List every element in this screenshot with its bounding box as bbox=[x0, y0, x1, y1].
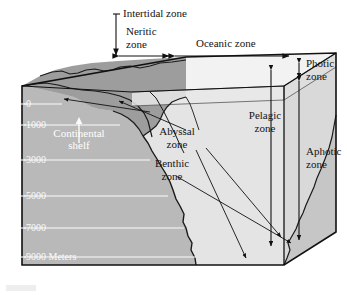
label-pelagic-zone-line2: zone bbox=[242, 123, 288, 135]
depth-label-0: 0 bbox=[26, 99, 31, 109]
label-photic-zone-line2: zone bbox=[306, 71, 327, 83]
label-aphotic-zone-line1: Aphotic bbox=[306, 146, 341, 158]
caption-remnant bbox=[6, 285, 36, 291]
label-benthic-zone-line2: zone bbox=[146, 171, 198, 183]
label-continental-shelf-line2: shelf bbox=[38, 140, 120, 152]
label-abyssal-zone-line2: zone bbox=[152, 139, 202, 151]
depth-label-7000: 7000 bbox=[26, 223, 46, 233]
label-intertidal-zone: Intertidal zone bbox=[123, 8, 187, 20]
label-pelagic-zone-line1: Pelagic bbox=[242, 110, 288, 122]
depth-label-9000-meters: 9000 Meters bbox=[26, 252, 76, 262]
ocean-zones-figure: Intertidal zone Neritic zone Oceanic zon… bbox=[0, 0, 347, 295]
depth-label-3000: 3000 bbox=[26, 155, 46, 165]
depth-label-5000: 5000 bbox=[26, 191, 46, 201]
depth-label-1000: 1000 bbox=[26, 120, 46, 130]
label-neritic-zone-line1: Neritic bbox=[126, 26, 157, 38]
label-photic-zone-line1: Photic bbox=[306, 58, 334, 70]
label-abyssal-zone-line1: Abyssal bbox=[152, 126, 202, 138]
label-neritic-zone-line2: zone bbox=[126, 39, 147, 51]
label-oceanic-zone: Oceanic zone bbox=[196, 38, 256, 50]
label-benthic-zone-line1: Benthic bbox=[146, 158, 198, 170]
label-aphotic-zone-line2: zone bbox=[306, 159, 327, 171]
label-continental-shelf-line1: Continental bbox=[38, 128, 120, 140]
